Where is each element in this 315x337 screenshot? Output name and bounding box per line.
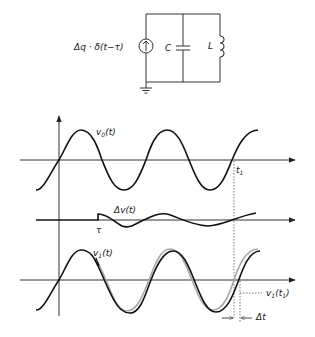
current-source-icon bbox=[139, 39, 153, 53]
capacitor-label: C bbox=[165, 43, 172, 53]
v0-label: v0(t) bbox=[96, 127, 116, 138]
t1-label: t1 bbox=[236, 165, 243, 176]
lc-circuit: Δq · δ(t−τ) C L bbox=[73, 14, 224, 93]
diagram-canvas: Δq · δ(t−τ) C L v0(t) t1 Δv(t) τ v1(t) v… bbox=[0, 0, 315, 337]
delta-t-label: Δt bbox=[255, 312, 266, 322]
source-label: Δq · δ(t−τ) bbox=[73, 42, 123, 52]
tau-label: τ bbox=[96, 225, 102, 235]
ground-icon bbox=[140, 88, 152, 93]
plot-delta-v: Δv(t) τ bbox=[36, 205, 295, 235]
inductor-icon bbox=[220, 36, 224, 57]
v1-t1-label: v1(t1) bbox=[266, 288, 290, 299]
inductor-label: L bbox=[208, 41, 213, 51]
plot-v0: v0(t) t1 bbox=[20, 127, 295, 190]
capacitor-icon bbox=[176, 46, 190, 50]
plot-v1: v1(t) v1(t1) Δt bbox=[20, 248, 295, 322]
delta-v-label: Δv(t) bbox=[113, 205, 136, 215]
v1-label: v1(t) bbox=[93, 248, 113, 259]
